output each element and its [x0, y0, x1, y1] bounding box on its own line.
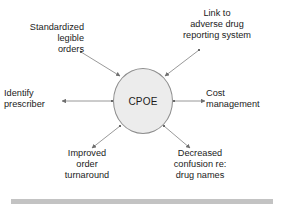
- central-node-label: CPOE: [128, 96, 157, 107]
- diagram-canvas: Standardized legible orders Link to adve…: [0, 0, 285, 212]
- node-label-cost-management: Cost management: [206, 88, 280, 110]
- node-label-link-adverse-drug-reporting: Link to adverse drug reporting system: [158, 8, 276, 42]
- node-label-standardized-legible-orders: Standardized legible orders: [6, 22, 84, 56]
- edge-improved-order-turnaround: [92, 126, 120, 148]
- edge-link-adverse-drug-reporting: [165, 50, 199, 76]
- node-label-decreased-confusion-drug-names: Decreased confusion re: drug names: [152, 148, 248, 182]
- node-label-identify-prescriber: Identify prescriber: [4, 88, 66, 110]
- edge-standardized-legible-orders: [81, 52, 120, 76]
- edge-decreased-confusion-drug-names: [164, 126, 190, 148]
- central-node-cpoe: CPOE: [113, 68, 173, 134]
- node-label-improved-order-turnaround: Improved order turnaround: [48, 148, 126, 182]
- footer-rule: [11, 199, 273, 204]
